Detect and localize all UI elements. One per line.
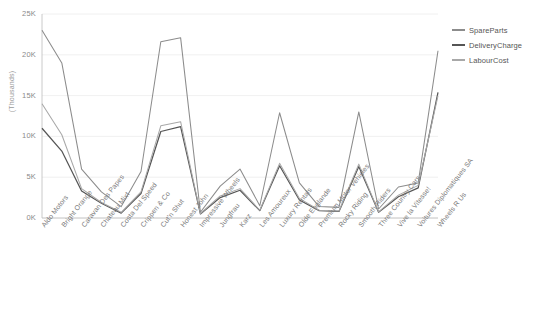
series-lines <box>42 30 438 214</box>
line-chart: (Thousands) 0K5K10K15K20K25K Aldo Motors… <box>0 0 540 326</box>
legend-label: DeliveryCharge <box>469 41 522 50</box>
legend-item[interactable]: LabourCost <box>452 54 522 66</box>
legend-label: LabourCost <box>469 56 509 65</box>
legend-swatch-deliverycharge <box>452 44 465 47</box>
gridlines <box>42 14 438 218</box>
series-line-spareparts <box>42 30 438 212</box>
axis-lines <box>42 14 438 218</box>
legend-item[interactable]: DeliveryCharge <box>452 39 522 51</box>
legend-swatch-labourcost <box>452 59 465 61</box>
legend-swatch-spareparts <box>452 29 465 31</box>
legend-label: SpareParts <box>469 26 508 35</box>
legend-item[interactable]: SpareParts <box>452 24 522 36</box>
legend: SpareParts DeliveryCharge LabourCost <box>452 24 522 69</box>
